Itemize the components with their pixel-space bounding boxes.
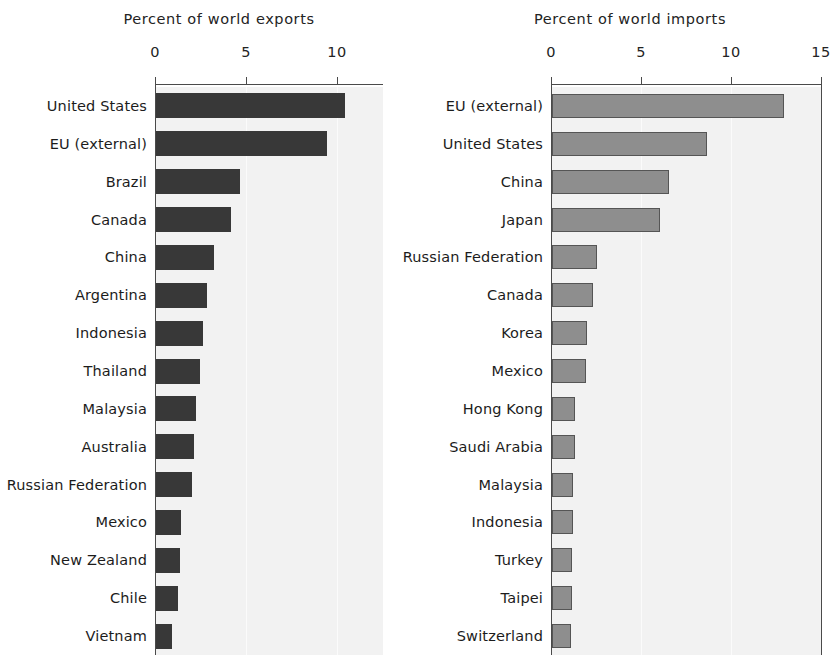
bar [552, 473, 573, 497]
exports-category-label: Thailand [0, 364, 147, 379]
exports-category-label: Canada [0, 213, 147, 228]
panel-imports-title: Percent of world imports [400, 11, 840, 27]
imports-xtick-label: 5 [636, 44, 646, 60]
figure-two-panel-bar-charts: Percent of world exports 0510 United Sta… [0, 0, 840, 661]
exports-category-label: Russian Federation [0, 478, 147, 493]
bar [552, 170, 669, 194]
bar [552, 245, 597, 269]
panel-exports: Percent of world exports 0510 United Sta… [0, 0, 400, 661]
imports-xtick-label: 0 [546, 44, 556, 60]
exports-gridline [246, 87, 247, 655]
bar [156, 207, 231, 232]
imports-category-label: Korea [400, 326, 543, 341]
exports-category-label: EU (external) [0, 137, 147, 152]
exports-y-axis-spine [155, 84, 156, 655]
imports-category-label: Saudi Arabia [400, 440, 543, 455]
bar [156, 245, 214, 270]
exports-category-label: Chile [0, 591, 147, 606]
imports-category-label: Canada [400, 288, 543, 303]
bar [552, 283, 593, 307]
imports-category-label: EU (external) [400, 99, 543, 114]
bar [156, 93, 345, 118]
bar [156, 396, 196, 421]
bar [552, 435, 575, 459]
imports-x-axis-line [551, 84, 821, 85]
exports-category-label: Brazil [0, 175, 147, 190]
imports-xtick-label: 10 [721, 44, 740, 60]
exports-xtick-label: 5 [241, 44, 251, 60]
imports-category-label: Hong Kong [400, 402, 543, 417]
exports-category-label: Argentina [0, 288, 147, 303]
bar [552, 586, 572, 610]
panel-exports-title: Percent of world exports [0, 11, 400, 27]
bar [156, 359, 200, 384]
imports-category-label: Indonesia [400, 515, 543, 530]
exports-category-label: China [0, 250, 147, 265]
bar [156, 472, 192, 497]
bar [552, 132, 707, 156]
bar [552, 321, 587, 345]
exports-category-label: Mexico [0, 515, 147, 530]
bar [552, 397, 575, 421]
bar [552, 94, 784, 118]
bar [552, 548, 572, 572]
imports-x-axis-ticklabels: 051015 [400, 44, 840, 66]
exports-x-axis-line [155, 84, 383, 85]
bar [156, 131, 327, 156]
exports-xtick-label: 10 [327, 44, 346, 60]
exports-plot-area [156, 87, 383, 655]
imports-y-axis-spine [551, 84, 552, 655]
bar [156, 434, 194, 459]
exports-category-label: Australia [0, 440, 147, 455]
exports-gridline [337, 87, 338, 655]
imports-category-label: China [400, 175, 543, 190]
bar [156, 169, 240, 194]
bar [552, 510, 573, 534]
bar [156, 624, 172, 649]
bar [156, 586, 178, 611]
bar [156, 510, 181, 535]
exports-category-label: United States [0, 99, 147, 114]
bar [552, 359, 586, 383]
exports-category-label: Malaysia [0, 402, 147, 417]
exports-category-label: Indonesia [0, 326, 147, 341]
imports-category-label: Russian Federation [400, 250, 543, 265]
bar [156, 283, 207, 308]
imports-category-label: Taipei [400, 591, 543, 606]
imports-category-label: Switzerland [400, 629, 543, 644]
exports-category-label: New Zealand [0, 553, 147, 568]
imports-category-label: Turkey [400, 553, 543, 568]
bar [552, 208, 660, 232]
bar [156, 548, 180, 573]
exports-category-label: Vietnam [0, 629, 147, 644]
bar [552, 624, 571, 648]
imports-category-label: Malaysia [400, 478, 543, 493]
imports-category-label: Japan [400, 213, 543, 228]
panel-imports: Percent of world imports 051015 EU (exte… [400, 0, 840, 661]
exports-x-axis-ticklabels: 0510 [0, 44, 400, 66]
imports-plot-area [552, 87, 821, 655]
imports-category-label: United States [400, 137, 543, 152]
imports-category-label: Mexico [400, 364, 543, 379]
imports-right-spine [821, 84, 822, 655]
imports-xtick-label: 15 [811, 44, 830, 60]
exports-xtick-label: 0 [150, 44, 160, 60]
bar [156, 321, 203, 346]
imports-gridline [731, 87, 732, 655]
